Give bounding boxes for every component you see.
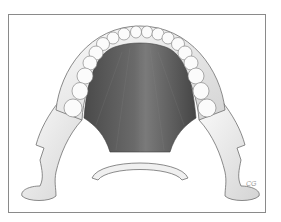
mandible-illustration <box>0 0 281 222</box>
artist-signature: CG <box>246 180 257 187</box>
hyoid-bone <box>92 163 188 180</box>
